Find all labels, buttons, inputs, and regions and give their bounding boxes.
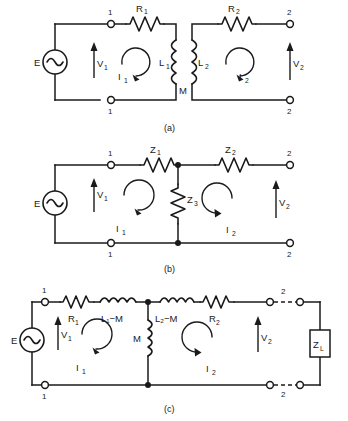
panel-c-i2-sub: 2 [212, 369, 216, 376]
panel-b-i2-label: I [226, 224, 229, 235]
panel-c-zl-sub: L [320, 345, 324, 352]
panel-c-inductor-l2-minus-m: L₂−M [155, 298, 194, 324]
panel-c-source-label: E [11, 335, 17, 346]
panel-b-terminal-2-bottom [287, 240, 294, 247]
circuit-figure: E R 1 R 2 L 1 L 2 M [0, 0, 348, 421]
panel-b-impedance-z1: Z 1 [140, 144, 178, 172]
panel-c-current-i2: I 2 [182, 322, 216, 376]
panel-c-l1mm-label: L₁−M [101, 313, 123, 324]
panel-a-resistor-r1: R 1 [126, 3, 164, 31]
panel-c-v2-label: V [261, 332, 268, 343]
panel-a-current-i2: I 2 [226, 48, 254, 84]
panel-c-r2-sub: 2 [216, 319, 220, 326]
panel-a-v2-sub: 2 [300, 64, 304, 71]
panel-a-inductor-l2: L 2 [192, 40, 209, 84]
panel-a-l2-label: L [198, 57, 203, 68]
panel-b-terminal-1-top-label: 1 [108, 149, 113, 158]
panel-b-terminal-1-bottom [108, 240, 115, 247]
panel-c-r1-sub: 1 [75, 319, 79, 326]
panel-b-i1-sub: 1 [122, 229, 126, 236]
panel-a: E R 1 R 2 L 1 L 2 M [34, 3, 304, 133]
panel-b-z1-sub: 1 [157, 149, 161, 156]
panel-a-inductor-l1: L 1 [159, 40, 176, 84]
panel-c-terminal-2-inner-top [267, 299, 274, 306]
panel-a-i1-label: I [118, 71, 121, 82]
panel-b-source: E [34, 191, 67, 215]
panel-c-r1-label: R [68, 313, 75, 324]
panel-a-source: E [34, 50, 67, 74]
panel-a-terminal-2-top [287, 21, 294, 28]
panel-b-impedance-z3: Z 3 [171, 184, 198, 224]
panel-b-source-label: E [34, 198, 40, 209]
panel-b-terminal-2-top [287, 162, 294, 169]
panel-c-current-i1: I 1 [76, 319, 112, 375]
panel-c-r2-label: R [209, 313, 216, 324]
panel-c-caption: (c) [164, 404, 175, 414]
panel-c-i2-label: I [206, 363, 209, 374]
panel-b-current-i1: I 1 [116, 180, 154, 236]
panel-c-inductor-l1-minus-m: L₁−M [100, 298, 136, 324]
panel-b-caption: (b) [164, 264, 175, 274]
panel-a-terminal-2-top-label: 2 [287, 8, 292, 17]
panel-a-terminal-1-bottom-label: 1 [108, 107, 113, 116]
panel-c-source: E [11, 328, 44, 352]
panel-a-caption: (a) [164, 123, 175, 133]
panel-b-impedance-z2: Z 2 [215, 144, 253, 172]
panel-a-terminal-1-top [108, 21, 115, 28]
panel-a-r2-label: R [228, 3, 235, 14]
panel-b-terminal-1-top [108, 162, 115, 169]
panel-b-z1-label: Z [150, 144, 156, 155]
panel-a-i2-label: I [239, 71, 242, 82]
panel-b-i1-label: I [116, 223, 119, 234]
panel-b-terminal-2-top-label: 2 [287, 149, 292, 158]
panel-c-v2-sub: 2 [268, 338, 272, 345]
panel-c-junction-top [145, 299, 151, 305]
panel-a-l1-label: L [159, 57, 164, 68]
panel-b-z2-label: Z [225, 144, 231, 155]
panel-a-v1-label: V [97, 58, 104, 69]
panel-c-v1-sub: 1 [68, 335, 72, 342]
panel-b-v1-label: V [97, 189, 104, 200]
panel-a-terminal-2-bottom-label: 2 [287, 107, 292, 116]
panel-c-i1-label: I [76, 362, 79, 373]
panel-c-i1-sub: 1 [82, 368, 86, 375]
panel-a-current-i1: I 1 [118, 48, 150, 84]
panel-b-voltage-v2: V 2 [273, 180, 291, 218]
panel-b-terminal-1-bottom-label: 1 [108, 250, 113, 259]
panel-b-v1-sub: 1 [104, 195, 108, 202]
panel-c-load-impedance: Z L [310, 330, 330, 357]
panel-c-resistor-r2: R 2 [200, 296, 234, 326]
panel-b-z2-sub: 2 [232, 149, 236, 156]
panel-c-terminal-2-bottom-label: 2 [281, 390, 286, 399]
panel-a-m-label: M [179, 85, 187, 96]
panel-c-terminal-1-top [42, 299, 49, 306]
panel-a-v1-sub: 1 [104, 64, 108, 71]
panel-b-terminal-2-bottom-label: 2 [287, 250, 292, 259]
panel-a-r1-label: R [136, 3, 143, 14]
panel-c-terminal-2-outer-bottom [297, 382, 304, 389]
panel-b-z3-label: Z [187, 194, 193, 205]
panel-b-junction-bottom [175, 240, 181, 246]
panel-b: E Z 1 Z 2 Z 3 V 1 [34, 144, 293, 274]
panel-a-terminal-1-top-label: 1 [108, 8, 113, 17]
panel-a-primary-wiring [55, 24, 176, 100]
panel-a-terminal-1-bottom [108, 97, 115, 104]
panel-c-v1-label: V [61, 329, 68, 340]
panel-b-current-i2: I 2 [202, 183, 236, 237]
panel-a-r1-sub: 1 [144, 8, 148, 15]
panel-a-l2-sub: 2 [205, 63, 209, 70]
panel-a-v2-label: V [293, 58, 300, 69]
panel-b-i2-sub: 2 [232, 230, 236, 237]
panel-c-terminal-1-top-label: 1 [42, 286, 47, 295]
panel-b-voltage-v1: V 1 [91, 178, 109, 212]
panel-a-terminal-2-bottom [287, 97, 294, 104]
panel-c-terminals: 1 1 2 2 [42, 286, 304, 401]
panel-a-voltage-v2: V 2 [287, 42, 305, 80]
circuit-diagram-canvas: E R 1 R 2 L 1 L 2 M [0, 0, 348, 421]
panel-c-terminal-2-inner-bottom [267, 382, 274, 389]
panel-b-v2-label: V [279, 197, 286, 208]
panel-c-terminal-1-bottom-label: 1 [42, 392, 47, 401]
panel-b-v2-sub: 2 [286, 203, 290, 210]
panel-a-i2-sub: 2 [245, 77, 249, 84]
panel-c-junction-bottom [145, 382, 151, 388]
